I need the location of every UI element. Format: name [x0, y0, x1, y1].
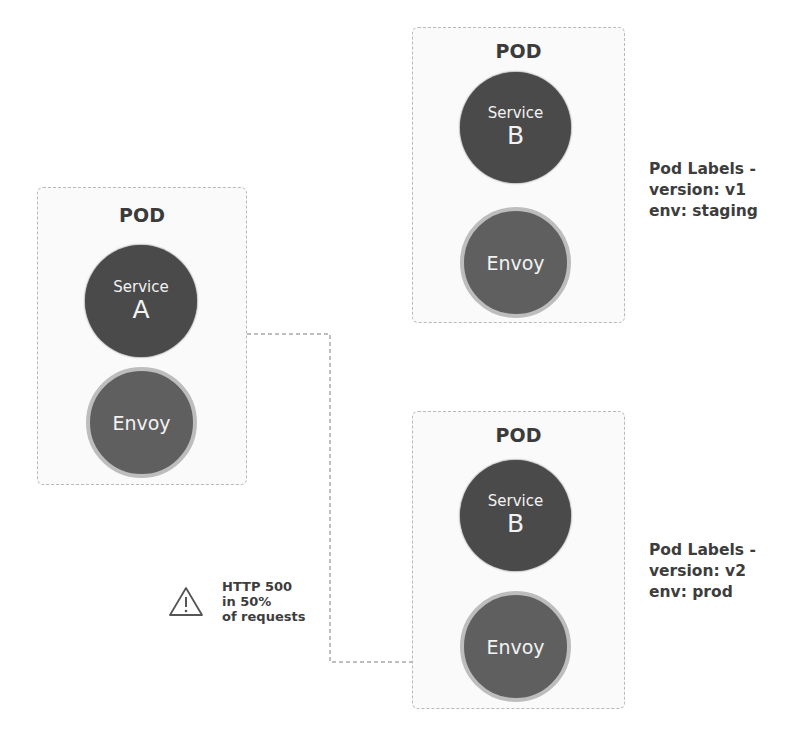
labels-heading: Pod Labels - [649, 540, 756, 561]
service-name: A [132, 296, 149, 324]
envoy-label: Envoy [112, 412, 170, 434]
service-name: B [507, 122, 524, 150]
pod-labels-v2: Pod Labels - version: v2 env: prod [649, 540, 756, 603]
label-version: version: v2 [649, 561, 756, 582]
envoy-label: Envoy [486, 636, 544, 658]
fault-line-1: HTTP 500 [222, 579, 305, 594]
envoy-sidecar-a: Envoy [86, 367, 197, 478]
pod-title: POD [413, 424, 624, 446]
envoy-label: Envoy [486, 252, 544, 274]
envoy-sidecar-b-v2: Envoy [460, 591, 571, 702]
fault-annotation: HTTP 500 in 50% of requests [222, 579, 305, 624]
pod-title: POD [38, 204, 246, 226]
service-label: Service [113, 279, 168, 296]
service-label: Service [488, 105, 543, 122]
envoy-sidecar-b-v1: Envoy [460, 207, 571, 318]
service-a-node: Service A [85, 245, 197, 357]
fault-line-3: of requests [222, 609, 305, 624]
service-label: Service [488, 493, 543, 510]
labels-heading: Pod Labels - [649, 159, 758, 180]
service-name: B [507, 510, 524, 538]
fault-line-2: in 50% [222, 594, 305, 609]
service-b-v1-node: Service B [460, 72, 571, 183]
pod-labels-v1: Pod Labels - version: v1 env: staging [649, 159, 758, 222]
label-env: env: staging [649, 201, 758, 222]
label-version: version: v1 [649, 180, 758, 201]
service-b-v2-node: Service B [460, 460, 571, 571]
label-env: env: prod [649, 582, 756, 603]
pod-title: POD [413, 40, 624, 62]
